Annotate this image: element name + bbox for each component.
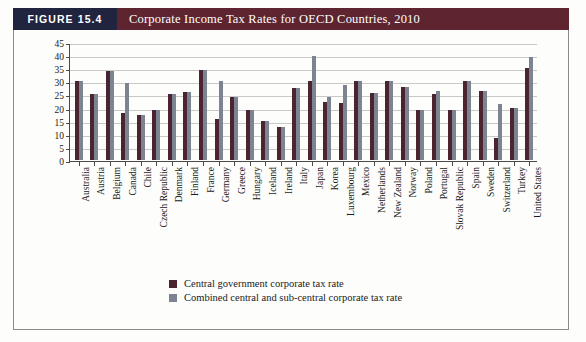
x-axis-tick: [118, 162, 134, 166]
y-axis-tick: [66, 123, 70, 124]
bar-group: [273, 43, 289, 160]
bar-combined: [436, 91, 440, 160]
y-axis-tick-label: 45: [55, 39, 65, 49]
x-label-cell: Belgium: [101, 167, 117, 259]
x-label-cell: Austria: [86, 167, 102, 259]
bar-combined: [483, 91, 487, 160]
bar-group: [397, 43, 413, 160]
x-label-cell: Australia: [70, 167, 86, 259]
y-axis-tick-label: 5: [59, 144, 64, 154]
x-axis-tick: [521, 162, 537, 166]
bar-group: [459, 43, 475, 160]
bar-combined: [358, 81, 362, 160]
x-axis-tick: [397, 162, 413, 166]
x-axis-tick: [366, 162, 382, 166]
bar-combined: [250, 110, 254, 160]
x-label-cell: Spain: [460, 167, 476, 259]
x-axis-tick: [242, 162, 258, 166]
bar-group: [490, 43, 506, 160]
bar-group: [257, 43, 273, 160]
bar-combined: [343, 85, 347, 160]
x-label-cell: Germany: [210, 167, 226, 259]
x-label-cell: Japan: [304, 167, 320, 259]
x-axis-tick: [211, 162, 227, 166]
bar-combined: [296, 88, 300, 160]
bar-group: [118, 43, 134, 160]
bar-group: [71, 43, 87, 160]
x-axis-category-label: United States: [533, 167, 543, 218]
bar-combined: [141, 115, 145, 160]
x-label-cell: Iceland: [257, 167, 273, 259]
bar-combined: [156, 110, 160, 160]
x-axis-tick: [288, 162, 304, 166]
bar-combined: [452, 110, 456, 160]
x-label-cell: Turkey: [507, 167, 523, 259]
bar-combined: [219, 81, 223, 160]
x-label-cell: Norway: [397, 167, 413, 259]
bar-group: [149, 43, 165, 160]
bar-combined: [110, 71, 114, 160]
x-axis-tick: [506, 162, 522, 166]
bar-group: [382, 43, 398, 160]
bar-combined: [312, 56, 316, 160]
y-axis-tick: [66, 136, 70, 137]
bar-group: [242, 43, 258, 160]
bar-combined: [389, 81, 393, 160]
x-label-cell: Italy: [288, 167, 304, 259]
bar-group: [320, 43, 336, 160]
x-axis-tick: [428, 162, 444, 166]
bar-combined: [467, 81, 471, 160]
legend-item: Central government corporate tax rate: [169, 278, 419, 289]
x-axis-tick: [273, 162, 289, 166]
x-axis-tick: [195, 162, 211, 166]
x-axis-tick: [444, 162, 460, 166]
x-label-cell: Chile: [132, 167, 148, 259]
bar-combined: [234, 97, 238, 160]
x-axis-tick: [257, 162, 273, 166]
x-axis-category-labels: AustraliaAustriaBelgiumCanadaChileCzech …: [70, 167, 538, 259]
bar-combined: [172, 94, 176, 160]
bar-group: [164, 43, 180, 160]
y-axis-tick: [66, 70, 70, 71]
bar-combined: [203, 70, 207, 160]
legend-item: Combined central and sub-central corpora…: [169, 292, 419, 303]
y-axis-tick-label: 15: [55, 118, 65, 128]
chart-axes: 051015202530354045: [69, 44, 537, 162]
x-label-cell: Portugal: [429, 167, 445, 259]
x-label-cell: United States: [522, 167, 538, 259]
y-axis-tick-label: 40: [55, 52, 65, 62]
x-label-cell: Luxembourg: [335, 167, 351, 259]
x-label-cell: Poland: [413, 167, 429, 259]
x-axis-tick: [149, 162, 165, 166]
bar-group: [351, 43, 367, 160]
x-axis-tick: [226, 162, 242, 166]
legend-label: Central government corporate tax rate: [184, 278, 344, 289]
figure-page: FIGURE 15.4 Corporate Income Tax Rates f…: [0, 0, 586, 342]
legend-swatch-combined: [169, 294, 177, 302]
x-label-cell: Korea: [320, 167, 336, 259]
y-axis-tick: [66, 83, 70, 84]
chart-plot-area: 051015202530354045: [69, 44, 537, 162]
x-axis-tick: [304, 162, 320, 166]
x-label-cell: Hungary: [242, 167, 258, 259]
x-label-cell: Greece: [226, 167, 242, 259]
x-label-cell: France: [195, 167, 211, 259]
x-axis-tick: [71, 162, 87, 166]
y-axis-tick: [66, 57, 70, 58]
figure-header: FIGURE 15.4 Corporate Income Tax Rates f…: [13, 8, 569, 30]
bar-combined: [529, 57, 533, 160]
figure-number-tag: FIGURE 15.4: [13, 8, 117, 30]
bar-combined: [281, 127, 285, 160]
bar-group: [366, 43, 382, 160]
x-axis-tick: [102, 162, 118, 166]
bar-combined: [420, 110, 424, 160]
x-axis-tick: [164, 162, 180, 166]
y-axis-tick: [66, 149, 70, 150]
legend-label: Combined central and sub-central corpora…: [184, 292, 402, 303]
x-axis-tick: [133, 162, 149, 166]
bar-group: [335, 43, 351, 160]
y-axis-tick-label: 10: [55, 131, 65, 141]
y-axis-tick: [66, 162, 70, 163]
bar-combined: [265, 121, 269, 160]
x-label-cell: Sweden: [475, 167, 491, 259]
